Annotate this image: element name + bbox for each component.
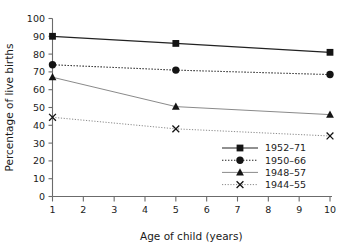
y-tick-label: 20 [33,155,45,166]
x-tick-label: 9 [296,204,302,215]
x-tick-label: 1 [49,204,55,215]
y-tick-label: 10 [33,173,45,184]
y-tick-label: 80 [33,49,45,60]
marker-square [237,145,244,152]
marker-cross [327,133,334,140]
legend-item[interactable]: 1950–66 [222,155,306,166]
x-tick-label: 4 [142,204,148,215]
x-tick-label: 8 [265,204,271,215]
y-tick-label: 50 [33,102,45,113]
y-tick-label: 100 [27,13,45,24]
y-tick-label: 40 [33,120,45,131]
legend-item[interactable]: 1952–71 [222,142,306,153]
line-chart: 010203040506070809010012345678910Percent… [0,0,344,250]
marker-triangle [236,168,244,175]
marker-triangle [49,73,57,80]
marker-square [172,40,179,47]
series-line [53,65,331,75]
legend-label: 1944–55 [265,179,306,190]
legend-item[interactable]: 1944–55 [222,179,306,190]
x-axis-title: Age of child (years) [140,230,242,242]
series-1948-57 [49,73,334,118]
series-1952-71 [49,33,333,56]
marker-circle [172,66,179,73]
chart-canvas: 010203040506070809010012345678910Percent… [0,0,344,250]
x-tick-label: 6 [204,204,210,215]
x-tick-label: 2 [80,204,86,215]
legend-label: 1950–66 [265,155,306,166]
marker-circle [326,71,333,78]
series-1950-66 [49,61,334,78]
legend-label: 1952–71 [265,142,306,153]
x-tick-label: 7 [234,204,240,215]
y-tick-label: 30 [33,138,45,149]
series-line [53,117,331,136]
series-line [53,77,331,114]
x-tick-label: 3 [111,204,117,215]
y-tick-label: 90 [33,31,45,42]
series-1944-55 [49,114,333,139]
y-tick-label: 60 [33,84,45,95]
y-axis-title: Percentage of live births [3,44,15,172]
legend-item[interactable]: 1948–57 [222,167,306,178]
marker-square [49,33,56,40]
x-tick-label: 10 [324,204,336,215]
x-tick-label: 5 [173,204,179,215]
marker-square [327,49,334,56]
marker-circle [236,157,243,164]
series-line [53,36,331,52]
legend: 1952–711950–661948–571944–55 [222,142,306,190]
marker-circle [49,61,56,68]
y-tick-label: 0 [39,191,45,202]
legend-label: 1948–57 [265,167,306,178]
y-tick-label: 70 [33,66,45,77]
